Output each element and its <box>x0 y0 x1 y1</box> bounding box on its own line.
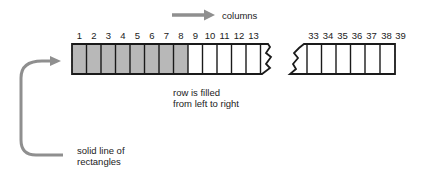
column-number: 13 <box>246 30 261 41</box>
column-number: 7 <box>159 30 174 41</box>
row-caption-line: from left to right <box>173 98 239 109</box>
column-number: 38 <box>379 30 394 41</box>
row-segment-right <box>290 44 395 74</box>
column-number: 35 <box>335 30 350 41</box>
side-caption-line: solid line of <box>77 145 125 156</box>
column-number: 39 <box>393 30 408 41</box>
column-number: 37 <box>364 30 379 41</box>
column-number: 1 <box>72 30 87 41</box>
row-caption: row is filled from left to right <box>173 87 239 109</box>
column-number: 5 <box>130 30 145 41</box>
columns-arrow-icon <box>172 10 215 21</box>
columns-label: columns <box>222 10 257 21</box>
column-number: 10 <box>203 30 218 41</box>
column-number: 11 <box>217 30 232 41</box>
column-number: 8 <box>174 30 189 41</box>
column-number: 36 <box>350 30 365 41</box>
curved-arrow-icon <box>21 56 63 155</box>
column-number: 3 <box>101 30 116 41</box>
column-number: 34 <box>321 30 336 41</box>
side-caption: solid line of rectangles <box>77 145 125 167</box>
column-number: 6 <box>145 30 160 41</box>
row-segment-left <box>72 44 271 74</box>
column-number: 4 <box>116 30 131 41</box>
side-caption-line: rectangles <box>77 156 125 167</box>
row-caption-line: row is filled <box>173 87 239 98</box>
column-number: 9 <box>188 30 203 41</box>
column-number: 33 <box>306 30 321 41</box>
column-number: 12 <box>232 30 247 41</box>
column-number: 2 <box>87 30 102 41</box>
